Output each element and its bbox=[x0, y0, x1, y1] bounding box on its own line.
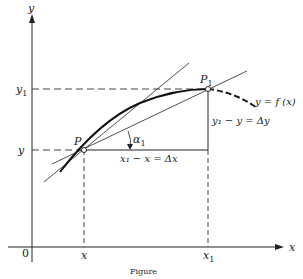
P1-label: P1 bbox=[199, 73, 213, 88]
delta-x-label: x₁ − x = Δx bbox=[120, 153, 178, 164]
y1-tick-label: y1 bbox=[15, 83, 27, 98]
derivative-diagram: y x 0 P P1 y y1 x x1 y = f (x) y₁ − y = … bbox=[0, 0, 303, 279]
P-label: P bbox=[73, 135, 82, 148]
point-P bbox=[82, 148, 87, 153]
delta-y-label: y₁ − y = Δy bbox=[211, 115, 270, 126]
figure-caption: Figure bbox=[130, 267, 157, 276]
x-axis-arrow-icon bbox=[275, 244, 284, 250]
y-tick-label: y bbox=[17, 144, 25, 157]
curve-dashed bbox=[208, 89, 257, 108]
x-axis-label: x bbox=[289, 241, 296, 254]
origin-label: 0 bbox=[22, 247, 29, 260]
x1-tick-label: x1 bbox=[203, 249, 214, 264]
x-tick-label: x bbox=[81, 249, 88, 262]
y-axis-label: y bbox=[27, 2, 35, 15]
alpha1-label: α1 bbox=[133, 133, 146, 148]
curve-label: y = f (x) bbox=[254, 96, 296, 107]
y-axis-arrow-icon bbox=[29, 14, 35, 23]
